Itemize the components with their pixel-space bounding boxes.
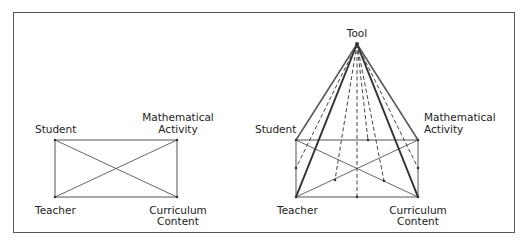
label-mathematical: Mathematical [142, 111, 214, 123]
diagram-canvas: Student Mathematical Activity Teacher Cu… [0, 0, 526, 245]
vertex-dot [295, 196, 298, 199]
left-rectangle-model: Student Mathematical Activity Teacher Cu… [34, 111, 214, 227]
label-content: Content [157, 215, 199, 227]
apex-edge-curriculum [357, 44, 418, 197]
apex-edge-student [296, 44, 357, 140]
edge-dot [334, 179, 337, 182]
vertex-dot [54, 196, 57, 199]
label-content: Content [397, 215, 439, 227]
dashed-to-right-side [357, 44, 418, 168]
label-student: Student [35, 123, 76, 135]
label-activity: Activity [158, 123, 197, 135]
vertex-dot [417, 139, 420, 142]
label-teacher: Teacher [34, 204, 76, 216]
edge-dot [383, 180, 386, 183]
vertex-dot [295, 139, 298, 142]
label-teacher: Teacher [276, 204, 318, 216]
apex-dot [355, 42, 359, 46]
label-tool: Tool [346, 27, 367, 39]
vertex-dot [417, 196, 420, 199]
label-mathematical: Mathematical [424, 111, 496, 123]
dashed-to-diagonal-left [335, 44, 357, 180]
edge-dot [367, 139, 370, 142]
edge-dot [417, 167, 420, 170]
vertex-dot [176, 196, 179, 199]
vertex-dot [176, 139, 179, 142]
right-pyramid-model: Tool Student Mathematical Activity Teach… [255, 27, 496, 227]
edge-dot [356, 196, 359, 199]
dashed-to-left-side [296, 44, 357, 168]
edge-dot [295, 167, 298, 170]
apex-edge-teacher [296, 44, 357, 197]
vertex-dot [54, 139, 57, 142]
label-student: Student [255, 123, 296, 135]
label-activity: Activity [424, 123, 463, 135]
